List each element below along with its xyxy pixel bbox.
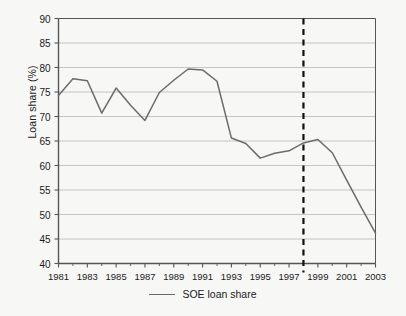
y-tick-label: 55: [29, 185, 51, 196]
x-tick-label: 1995: [250, 271, 271, 282]
x-tick-label: 1999: [307, 271, 328, 282]
y-tick-label: 70: [29, 111, 51, 122]
y-tick-label: 50: [29, 209, 51, 220]
gridlines: [59, 19, 376, 240]
x-tick-label: 1985: [106, 271, 127, 282]
line-chart-plot: [0, 0, 406, 316]
x-tick-label: 1987: [134, 271, 155, 282]
chart-figure: Loan share (%) 4045505560657075808590 19…: [0, 0, 406, 316]
x-tick-label: 2003: [365, 271, 386, 282]
y-tick-label: 85: [29, 38, 51, 49]
x-tick-label: 2001: [336, 271, 357, 282]
y-tick-label: 65: [29, 136, 51, 147]
x-tick-label: 1989: [163, 271, 184, 282]
x-tick-label: 1997: [278, 271, 299, 282]
y-tick-label: 75: [29, 87, 51, 98]
chart-legend: SOE loan share: [0, 288, 406, 300]
x-tick-label: 1981: [48, 271, 69, 282]
y-tick-label: 90: [29, 13, 51, 24]
y-tick-label: 45: [29, 234, 51, 245]
y-tick-label: 60: [29, 160, 51, 171]
legend-line-swatch: [149, 294, 175, 295]
x-tick-label: 1983: [77, 271, 98, 282]
x-tick-label: 1991: [192, 271, 213, 282]
x-tick-label: 1993: [221, 271, 242, 282]
series-soe-loan-share: [59, 69, 376, 233]
y-tick-label: 40: [29, 258, 51, 269]
legend-label: SOE loan share: [182, 288, 256, 300]
y-tick-label: 80: [29, 62, 51, 73]
